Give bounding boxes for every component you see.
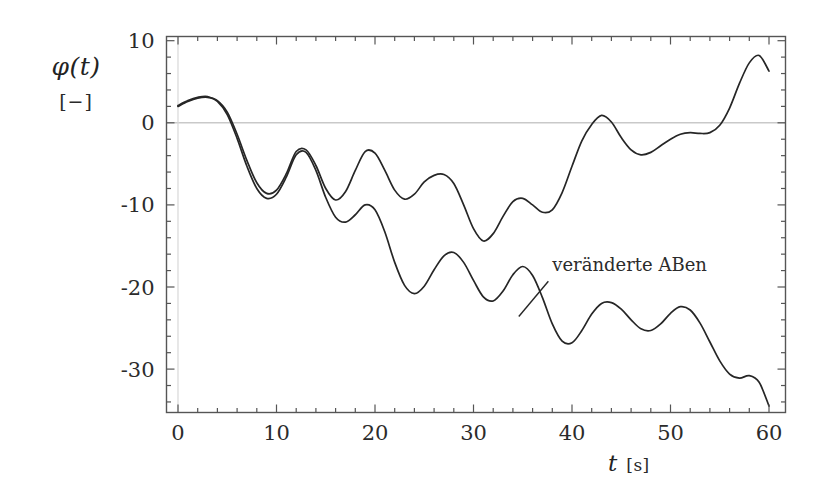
x-tick-label: 0 xyxy=(171,421,184,445)
y-axis-label-symbol: φ(t) xyxy=(20,54,132,79)
y-tick-label: -10 xyxy=(121,193,155,217)
x-axis-label-symbol: t xyxy=(608,450,617,476)
x-tick-label: 10 xyxy=(263,421,290,445)
x-tick-label: 20 xyxy=(362,421,389,445)
annotation-label: veränderte ABen xyxy=(551,254,707,275)
y-tick-label: -20 xyxy=(121,276,155,300)
y-tick-label: 0 xyxy=(141,111,154,135)
annotation-leader-line xyxy=(519,281,549,316)
x-tick-label: 40 xyxy=(559,421,586,445)
x-tick-label: 60 xyxy=(756,421,783,445)
y-tick-label: 10 xyxy=(128,29,155,53)
x-tick-labels: 0102030405060 xyxy=(171,421,782,445)
zero-line xyxy=(167,37,786,413)
series-line-1 xyxy=(178,96,769,406)
x-tick-label: 30 xyxy=(460,421,487,445)
y-axis-label: φ(t) [−] xyxy=(20,54,132,111)
figure-container: 0102030405060 100-10-20-30 veränderte AB… xyxy=(0,0,825,494)
plot-frame xyxy=(167,37,786,413)
x-tick-label: 50 xyxy=(657,421,684,445)
y-tick-label: -30 xyxy=(121,358,155,382)
x-axis-label: t[s] xyxy=(608,452,748,475)
x-axis-label-units: [s] xyxy=(626,455,650,475)
y-axis-label-units: [−] xyxy=(20,92,132,111)
data-curves xyxy=(178,55,769,406)
series-line-0 xyxy=(178,55,769,241)
axis-ticks xyxy=(167,37,786,413)
